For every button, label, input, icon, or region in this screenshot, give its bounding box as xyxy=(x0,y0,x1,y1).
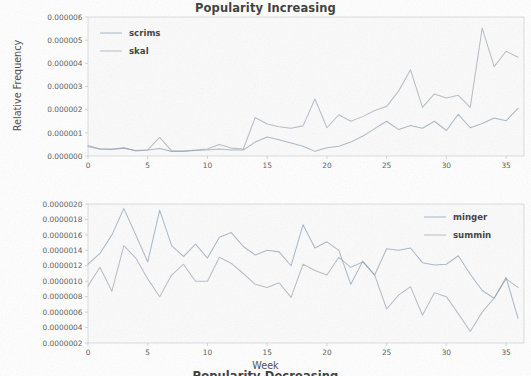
x-tick-label: 35 xyxy=(501,348,511,357)
legend-label-minger: minger xyxy=(453,212,488,222)
x-tick-label: 25 xyxy=(382,348,392,357)
y-tick-label: 0.0000014 xyxy=(43,246,83,255)
y-tick-label: 0.0000002 xyxy=(43,339,83,348)
x-tick-label: 30 xyxy=(442,348,452,357)
y-tick-label: 0.000000 xyxy=(47,152,83,161)
x-tick-label: 10 xyxy=(203,161,213,170)
y-tick-label: 0.0000008 xyxy=(43,292,83,301)
x-tick-label: 25 xyxy=(382,161,392,170)
x-tick-label: 0 xyxy=(86,348,91,357)
plot-area-top: 0.0000000.0000010.0000020.0000030.000004… xyxy=(0,0,531,188)
x-tick-label: 5 xyxy=(145,161,150,170)
y-tick-label: 0.000003 xyxy=(47,82,83,91)
x-tick-label: 10 xyxy=(203,348,213,357)
x-tick-label: 20 xyxy=(322,348,332,357)
y-tick-label: 0.000005 xyxy=(47,36,83,45)
chart-panel-popularity-increasing: Popularity Increasing Relative Frequency… xyxy=(0,0,531,188)
x-axis-label: Week xyxy=(0,360,531,371)
x-tick-label: 5 xyxy=(145,348,150,357)
y-tick-label: 0.0000020 xyxy=(43,200,83,209)
y-tick-label: 0.000002 xyxy=(47,105,82,114)
x-tick-label: 15 xyxy=(262,348,272,357)
y-tick-label: 0.0000018 xyxy=(43,215,83,224)
x-tick-label: 30 xyxy=(442,161,452,170)
y-tick-label: 0.0000016 xyxy=(43,231,83,240)
y-tick-label: 0.0000006 xyxy=(43,308,83,317)
legend-label-skal: skal xyxy=(129,46,149,56)
chart-panel-popularity-decreasing: Popularity Decreasing Relative Frequency… xyxy=(0,188,531,376)
y-tick-label: 0.0000010 xyxy=(43,277,83,286)
y-tick-label: 0.000006 xyxy=(47,13,83,22)
x-tick-label: 20 xyxy=(322,161,332,170)
figure-canvas: Popularity Increasing Relative Frequency… xyxy=(0,0,531,376)
y-tick-label: 0.0000004 xyxy=(43,323,83,332)
legend-label-scrims: scrims xyxy=(129,28,160,38)
x-tick-label: 35 xyxy=(501,161,511,170)
y-tick-label: 0.0000012 xyxy=(43,261,83,270)
plot-area-bottom: 0.00000020.00000040.00000060.00000080.00… xyxy=(0,188,531,376)
y-tick-label: 0.000004 xyxy=(47,59,83,68)
legend-label-summin: summin xyxy=(453,230,491,240)
x-tick-label: 15 xyxy=(262,161,272,170)
y-tick-label: 0.000001 xyxy=(47,129,83,138)
x-tick-label: 0 xyxy=(86,161,91,170)
